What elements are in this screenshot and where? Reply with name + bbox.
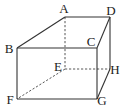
hidden-edges bbox=[17, 17, 110, 99]
vertex-label-a: A bbox=[59, 1, 69, 16]
vertex-label-h: H bbox=[110, 62, 119, 77]
vertex-label-d: D bbox=[106, 3, 115, 18]
vertex-label-g: G bbox=[97, 93, 106, 106]
edge-ba bbox=[17, 17, 65, 48]
vertex-label-c: C bbox=[87, 34, 96, 49]
vertex-label-b: B bbox=[5, 41, 14, 56]
cuboid-diagram: ABCDEFGH bbox=[0, 0, 127, 106]
vertex-label-f: F bbox=[6, 92, 13, 106]
vertex-label-e: E bbox=[54, 59, 62, 74]
edge-dc bbox=[97, 17, 110, 48]
solid-edges bbox=[17, 17, 110, 99]
